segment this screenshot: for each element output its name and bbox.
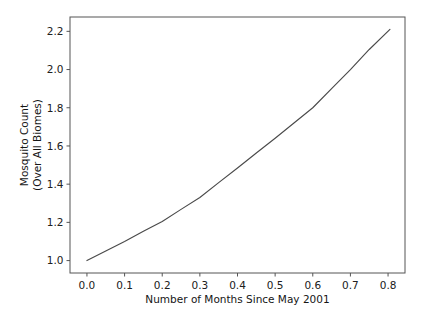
chart-figure: 0.00.10.20.30.40.50.60.70.8 1.01.21.41.6… — [0, 0, 425, 322]
y-axis-title-line1: Mosquito Count — [18, 104, 30, 186]
x-tick-label: 0.5 — [267, 279, 284, 291]
x-tick-label: 0.7 — [342, 279, 359, 291]
x-tick-labels: 0.00.10.20.30.40.50.60.70.8 — [79, 279, 397, 291]
y-tick-label: 1.6 — [47, 140, 64, 152]
x-tick-label: 0.2 — [154, 279, 171, 291]
y-axis-title-line2: (Over All Biomes) — [31, 99, 43, 191]
x-tick-label: 0.1 — [116, 279, 133, 291]
y-tick-label: 2.0 — [47, 63, 64, 75]
y-tick-label: 1.0 — [47, 254, 64, 266]
x-tick-label: 0.8 — [380, 279, 397, 291]
y-tick-label: 2.2 — [47, 25, 64, 37]
x-tick-label: 0.6 — [304, 279, 321, 291]
x-tick-label: 0.4 — [229, 279, 246, 291]
x-tick-label: 0.3 — [192, 279, 209, 291]
x-axis-title: Number of Months Since May 2001 — [145, 293, 329, 305]
line-chart: 0.00.10.20.30.40.50.60.70.8 1.01.21.41.6… — [0, 0, 425, 322]
y-tick-label: 1.8 — [47, 102, 64, 114]
y-tick-label: 1.4 — [47, 178, 64, 190]
x-tick-label: 0.0 — [79, 279, 96, 291]
y-tick-label: 1.2 — [47, 216, 64, 228]
plot-area-background — [70, 17, 405, 273]
